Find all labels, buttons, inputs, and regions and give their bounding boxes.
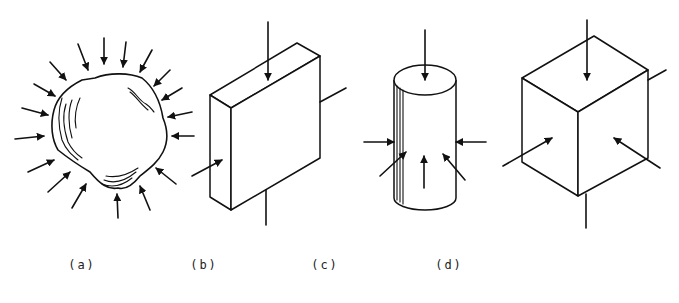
panel-d-cube <box>503 20 666 228</box>
panel-label-c: (c) <box>311 258 339 272</box>
panel-a-rock-specimen <box>15 38 194 218</box>
panel-c-cylinder <box>364 30 486 210</box>
panel-label-b: (b) <box>190 258 218 272</box>
panel-label-a: (a) <box>68 258 96 272</box>
panel-label-d: (d) <box>435 258 463 272</box>
panel-b-slab <box>192 22 346 225</box>
stress-state-figure <box>0 0 679 303</box>
pressure-arrows <box>15 38 194 218</box>
rock-outline <box>52 74 167 189</box>
